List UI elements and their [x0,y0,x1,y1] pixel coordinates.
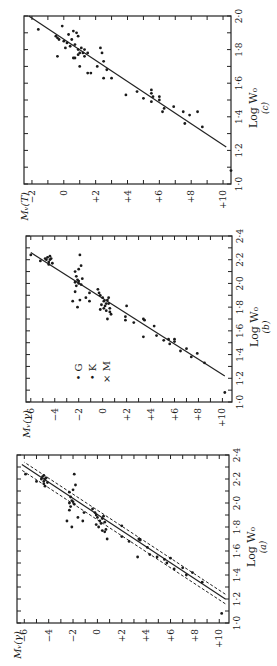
logw-tick-label: 1·0 [232,616,242,631]
data-point [169,557,172,560]
data-point [81,520,84,523]
data-point [39,260,42,263]
logw-axis-title: Log W₀ [248,306,261,347]
data-point [105,302,108,305]
logw-tick-label: 1·6 [232,544,242,559]
magnitude-tick-label: +4 [123,190,133,204]
data-point [74,57,77,60]
logw-tick-label: 1·4 [235,347,245,362]
data-point [124,319,127,322]
data-point [77,48,80,51]
data-point [69,45,72,48]
data-point [139,539,142,542]
logw-tick-label: 1·6 [235,323,245,338]
data-point [102,300,105,303]
data-point [74,281,77,284]
data-point [103,521,106,524]
data-point [71,300,74,303]
data-point [152,95,155,98]
data-points [24,473,223,615]
data-point [158,95,161,98]
plot-frame [17,455,229,623]
data-points [37,25,232,172]
magnitude-tick-label: +10 [217,408,227,427]
data-point [96,288,99,291]
logw-axis: 1·01·21·41·61·82·02·22·4Log W₀(a) [17,448,268,631]
data-point [89,72,92,75]
magnitude-tick-label: +6 [166,629,176,643]
data-point [108,307,111,310]
logw-tick-label: 1·2 [235,371,245,385]
data-point [91,508,94,511]
data-point [72,30,75,33]
magnitude-tick-label: +10 [214,629,224,648]
logw-tick-label: 1·8 [235,300,245,315]
data-point [183,122,186,125]
data-point [97,526,100,529]
data-point [83,48,86,51]
data-point [100,303,103,306]
data-point [73,503,76,506]
data-point [100,522,103,525]
legend-item-k: • K [87,363,98,380]
data-point [190,356,193,359]
data-point [196,352,199,355]
data-point [50,257,53,260]
chart-panel-c: −20+2+4+6+8+10Mᵥ(T)1·01·21·41·61·82·0Log… [0,0,277,222]
data-point [82,52,85,55]
data-point [146,546,149,549]
magnitude-axis: −20+2+4+6+8+10Mᵥ(T) [19,16,228,221]
data-point [96,65,99,68]
data-point [161,110,164,113]
data-point [45,476,48,479]
data-point [61,25,64,28]
data-point [29,254,32,257]
logw-axis-title: Log W₀ [247,87,260,128]
data-point [98,520,101,523]
data-point [51,262,54,265]
panel-label: (b) [261,320,271,333]
data-point [110,313,113,316]
magnitude-tick-label: +4 [146,408,156,422]
data-point [24,473,27,476]
logw-tick-label: 1·6 [234,76,244,91]
data-point [88,292,91,295]
chart-panel-a: −6−4−20+2+4+6+8+10Mᵥ(γ)1·01·21·41·61·82·… [0,444,277,666]
data-point [105,68,108,71]
data-point [49,255,52,258]
data-point [203,361,206,364]
data-point [68,509,71,512]
data-point [58,38,61,41]
logw-axis: 1·01·21·41·61·82·0Log W₀(c) [24,9,270,192]
data-point [46,481,49,484]
data-point [76,306,79,309]
magnitude-tick-label: 0 [98,408,108,414]
magnitude-tick-label: +8 [190,629,200,643]
data-point [78,65,81,68]
data-point [142,335,145,338]
data-point [68,491,71,494]
data-points [29,254,226,394]
legend-item-m: × M [101,361,112,383]
logw-tick-label: 2·4 [235,229,245,244]
data-point [163,107,166,110]
data-point [69,496,72,499]
data-point [124,315,127,318]
data-point [101,517,104,520]
data-point [40,478,43,481]
data-point [106,538,109,541]
data-point [125,94,128,97]
logw-tick-label: 1·8 [234,42,244,57]
data-point [230,169,233,172]
magnitude-axis-title: Mᵥ(γ) [21,410,32,439]
data-point [173,340,176,343]
data-point [73,473,76,476]
logw-tick-label: 1·4 [232,568,242,583]
logw-tick-label: 2·0 [232,496,242,511]
data-point [42,474,45,477]
data-point [62,40,65,43]
data-point [148,553,151,556]
data-point [74,290,77,293]
data-point [95,523,98,526]
scatter-plot-c: −20+2+4+6+8+10Mᵥ(T)1·01·21·41·61·82·0Log… [0,0,277,222]
